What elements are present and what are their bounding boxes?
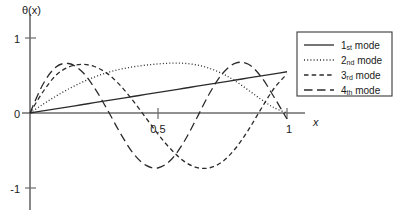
axes: [22, 14, 305, 210]
mode-shape-chart: 1 0 -1 0.5 1 θ(x) x 1st mode 2nd mode 3r…: [0, 0, 398, 214]
legend-text-1: mode: [355, 40, 380, 51]
legend: 1st mode 2nd mode 3rd mode 4th mode: [297, 32, 392, 96]
x-tick-label-one: 1: [286, 123, 292, 135]
y-tick-label-0: 0: [14, 108, 20, 120]
chart-canvas: 1 0 -1 0.5 1 θ(x) x 1st mode 2nd mode 3r…: [0, 0, 398, 214]
x-axis-title: x: [312, 116, 319, 128]
series-line-1st-mode: [30, 72, 287, 113]
y-axis-title: θ(x): [22, 4, 41, 16]
legend-text-3: mode: [356, 70, 381, 81]
series-line-2nd-mode: [30, 63, 287, 113]
legend-text-2: mode: [357, 55, 382, 66]
legend-text-4: mode: [355, 85, 380, 96]
legend-suffix-2: nd: [347, 59, 355, 66]
y-tick-label-1: 1: [14, 33, 20, 45]
y-tick-label-minus1: -1: [10, 183, 20, 195]
